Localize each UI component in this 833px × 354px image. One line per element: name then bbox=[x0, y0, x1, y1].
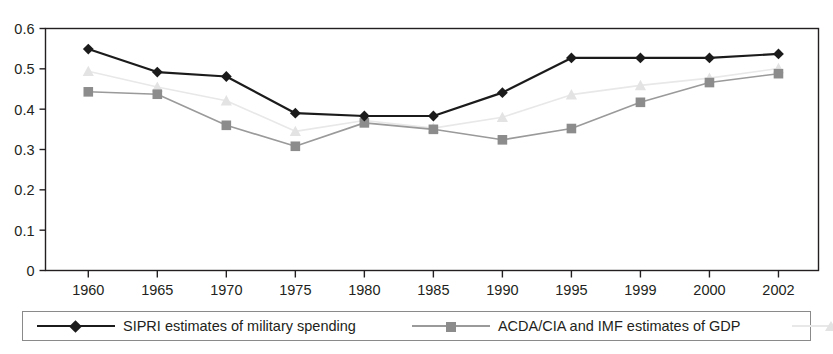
data-point-square bbox=[291, 141, 301, 151]
legend-item-sipri[interactable]: SIPRI estimates of military spending bbox=[37, 312, 356, 340]
data-point-square bbox=[636, 98, 646, 108]
data-point-square bbox=[705, 78, 715, 88]
x-axis-tick-label: 1995 bbox=[555, 282, 587, 298]
plot-area: 00.10.20.30.40.50.6196019651970197519801… bbox=[0, 0, 833, 300]
data-point-diamond bbox=[497, 87, 508, 98]
diamond-icon bbox=[69, 320, 82, 333]
square-icon bbox=[446, 322, 456, 332]
x-axis-tick-label: 1985 bbox=[417, 282, 449, 298]
data-point-diamond bbox=[428, 111, 439, 122]
x-axis-tick-label: 1970 bbox=[210, 282, 242, 298]
data-point-diamond bbox=[290, 108, 301, 119]
x-axis-tick-label: 2000 bbox=[693, 282, 725, 298]
data-point-square bbox=[567, 124, 577, 134]
x-axis-tick-label: 1960 bbox=[72, 282, 104, 298]
legend-marker-square bbox=[412, 318, 490, 334]
chart-figure: 00.10.20.30.40.50.6196019651970197519801… bbox=[0, 0, 833, 354]
chart-legend: SIPRI estimates of military spending ACD… bbox=[22, 311, 811, 341]
x-axis-tick-label: 1999 bbox=[624, 282, 656, 298]
legend-marker-triangle bbox=[792, 318, 833, 334]
y-axis-tick-label: 0.5 bbox=[14, 61, 34, 77]
series-line bbox=[88, 68, 778, 131]
data-point-square bbox=[222, 121, 232, 131]
x-axis-tick-label: 2002 bbox=[762, 282, 794, 298]
y-axis-tick-label: 0.1 bbox=[14, 223, 34, 239]
plot-frame bbox=[46, 29, 819, 271]
series-1 bbox=[83, 44, 784, 122]
x-axis-tick-label: 1990 bbox=[486, 282, 518, 298]
triangle-icon bbox=[825, 321, 833, 331]
data-point-triangle bbox=[497, 112, 508, 122]
y-axis-tick-label: 0 bbox=[26, 263, 34, 279]
legend-label-acda-cia-imf: ACDA/CIA and IMF estimates of GDP bbox=[498, 319, 741, 334]
data-point-square bbox=[429, 125, 439, 135]
data-point-diamond bbox=[221, 71, 232, 82]
legend-marker-diamond bbox=[37, 318, 115, 334]
series-line bbox=[88, 74, 778, 147]
y-axis-tick-label: 0.4 bbox=[14, 102, 34, 118]
legend-item-acda-cia-imf[interactable]: ACDA/CIA and IMF estimates of GDP bbox=[412, 312, 741, 340]
data-point-square bbox=[83, 87, 93, 97]
data-point-diamond bbox=[704, 53, 715, 64]
y-axis-tick-label: 0.6 bbox=[14, 21, 34, 37]
y-axis-tick-label: 0.3 bbox=[14, 142, 34, 158]
x-axis-tick-label: 1965 bbox=[141, 282, 173, 298]
data-point-triangle bbox=[83, 66, 94, 76]
data-point-diamond bbox=[83, 44, 94, 55]
x-axis-tick-label: 1975 bbox=[279, 282, 311, 298]
data-point-diamond bbox=[152, 67, 163, 78]
data-point-square bbox=[153, 89, 163, 99]
data-point-diamond bbox=[566, 53, 577, 64]
legend-item-aggregate[interactable]: Aggregate values for great powers bbox=[792, 312, 833, 340]
x-axis-tick-label: 1980 bbox=[348, 282, 380, 298]
data-point-square bbox=[498, 135, 508, 145]
series-line bbox=[88, 49, 778, 116]
y-axis-tick-label: 0.2 bbox=[14, 182, 34, 198]
line-chart-svg: 00.10.20.30.40.50.6196019651970197519801… bbox=[0, 0, 833, 300]
data-point-diamond bbox=[635, 53, 646, 64]
legend-label-sipri: SIPRI estimates of military spending bbox=[123, 319, 356, 334]
data-point-square bbox=[774, 69, 784, 79]
data-point-diamond bbox=[773, 49, 784, 60]
